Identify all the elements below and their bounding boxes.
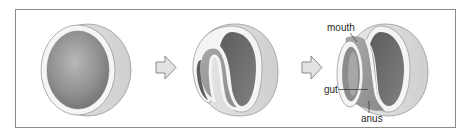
svg-text:mouth: mouth [327,22,355,33]
gastrulation-diagram: mouth gut anus [0,0,475,135]
svg-text:gut: gut [324,84,338,95]
svg-text:anus: anus [361,113,383,124]
stage-1-blastula [41,24,131,116]
stage-3-gut-formed [337,24,428,116]
